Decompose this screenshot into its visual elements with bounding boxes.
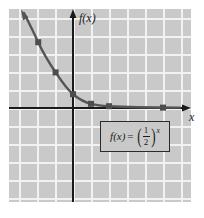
grid-line-horizontal xyxy=(9,108,191,110)
formula-lhs: f(x) xyxy=(110,131,125,142)
x-axis-label: x xyxy=(189,110,194,125)
plot-area xyxy=(9,9,191,202)
formula-numerator: 1 xyxy=(143,126,150,135)
formula-right-paren: ) xyxy=(151,128,155,145)
grid-line-horizontal xyxy=(9,90,191,92)
grid-line-horizontal xyxy=(9,54,191,56)
formula-exponent: x xyxy=(157,127,160,135)
formula-fraction: 1 2 xyxy=(143,126,150,147)
grid-line-horizontal xyxy=(9,180,191,182)
grid-line-horizontal xyxy=(9,36,191,38)
grid-line-horizontal xyxy=(9,198,191,200)
y-axis-label: f(x) xyxy=(79,11,96,26)
formula-expression: f(x) = ( 1 2 ) x xyxy=(110,126,160,147)
grid-line-horizontal xyxy=(9,72,191,74)
grid-line-horizontal xyxy=(9,18,191,20)
grid-line-horizontal xyxy=(9,162,191,164)
exponential-decay-figure: f(x) x f(x) = ( 1 2 ) x xyxy=(0,0,204,218)
formula-annotation-box: f(x) = ( 1 2 ) x xyxy=(100,121,170,152)
formula-denominator: 2 xyxy=(143,138,150,147)
formula-equals-sign: = xyxy=(127,131,133,142)
formula-left-paren: ( xyxy=(137,128,141,145)
grid-lines xyxy=(9,9,191,202)
